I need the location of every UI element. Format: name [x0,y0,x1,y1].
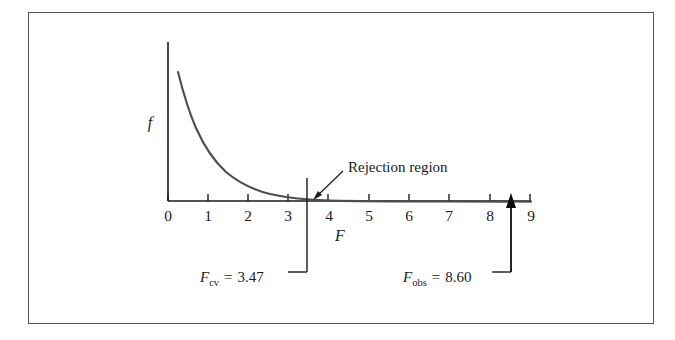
observed-value-subscript: obs [412,277,427,288]
x-tick-label-0: 0 [164,207,172,224]
observed-value-callout: Fobs=8.60 [402,269,471,288]
rejection-region-label: Rejection region [348,159,448,175]
x-tick-label-5: 5 [365,207,373,224]
x-tick-label-8: 8 [486,207,494,224]
y-axis-title: f [148,114,155,132]
critical-value-subscript: cv [209,277,220,288]
x-tick-label-2: 2 [244,207,252,224]
f-density-curve [178,72,531,202]
observed-value-number: 8.60 [445,269,471,285]
x-tick-label-9: 9 [527,207,535,224]
x-axis-tick-labels: 0 1 2 3 4 5 6 7 8 9 [164,207,535,224]
observed-value-callout-text: Fobs=8.60 [402,269,471,288]
x-tick-label-3: 3 [284,207,292,224]
f-distribution-plot: 0 1 2 3 4 5 6 7 8 9 F f Rejection region [0,0,675,340]
x-tick-label-1: 1 [204,207,212,224]
critical-value-equals: = [224,269,232,285]
x-tick-label-7: 7 [445,207,453,224]
critical-value-number: 3.47 [238,269,265,285]
x-tick-label-4: 4 [325,207,333,224]
x-tick-label-6: 6 [405,207,413,224]
critical-value-callout-text: Fcv=3.47 [199,269,264,288]
x-axis-title: F [334,227,345,244]
observed-value-equals: = [432,269,440,285]
critical-value-callout: Fcv=3.47 [199,269,264,288]
figure-root: 0 1 2 3 4 5 6 7 8 9 F f Rejection region [0,0,675,340]
